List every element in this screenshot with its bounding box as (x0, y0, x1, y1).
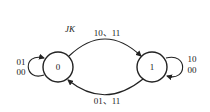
state-label-0: 0 (56, 62, 61, 72)
state-label-1: 1 (150, 62, 155, 72)
self-loop-1-label-1: 10 (188, 54, 198, 64)
state-diagram: 0 1 JK 10、11 01、11 01 00 10 00 (0, 0, 210, 112)
state-node-1: 1 (137, 52, 167, 82)
transition-1-to-0-label: 01、11 (94, 96, 121, 106)
state-node-0: 0 (43, 52, 73, 82)
self-loop-1-arc (166, 57, 183, 77)
input-label: JK (65, 24, 76, 34)
self-loop-0-arc (28, 57, 44, 76)
self-loop-0-label-1: 01 (17, 57, 26, 67)
self-loop-1-label-2: 00 (188, 65, 198, 75)
self-loop-0-label-2: 00 (17, 67, 27, 77)
transition-0-to-1-label: 10、11 (94, 28, 121, 38)
transition-0-to-1-arc (69, 39, 141, 56)
transition-1-to-0-arc (68, 79, 143, 95)
